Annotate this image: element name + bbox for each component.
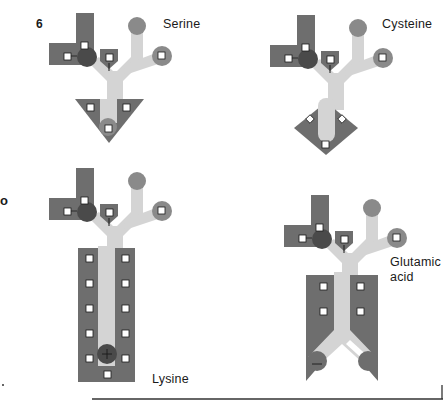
cysteine-molecule <box>270 15 393 155</box>
glutamic-negative-charge <box>307 351 327 371</box>
glutamic-acid-molecule <box>284 195 407 381</box>
serine-molecule <box>49 13 172 143</box>
lysine-molecule <box>49 168 172 382</box>
bottom-bracket <box>2 384 443 399</box>
amino-acid-diagram <box>0 0 448 408</box>
